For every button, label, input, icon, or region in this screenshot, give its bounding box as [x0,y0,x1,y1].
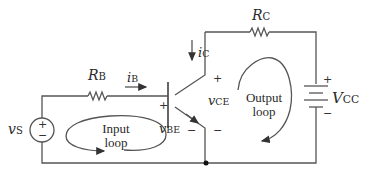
input-loop-label: Inputloop [96,122,136,149]
vbe-plus-sign: + [159,100,168,111]
base-current-label: iB [127,71,138,84]
emitter-arrow-icon [186,114,198,123]
source-top-wire [42,96,88,118]
vce-minus-sign: − [213,125,222,136]
source-minus-sign: − [38,130,47,141]
base-resistor-label: RB [88,68,106,82]
circuit-schematic [0,0,371,175]
supply-label: VCC [332,91,359,106]
collector-current-label: iC [198,46,209,59]
collector-resistor-label: RC [252,8,270,22]
collector-lead [175,32,205,95]
supply-minus-sign: − [323,108,332,119]
supply-top-wire [269,32,316,84]
collector-resistor-icon [250,28,269,36]
bjt-circuit-diagram: RB iB RC iC vS VCC vBE vCE + − + − + − +… [0,0,371,175]
ground-junction-dot [204,161,209,166]
base-resistor-icon [88,92,107,100]
output-loop-label: Outputloop [241,91,287,118]
supply-plus-sign: + [323,74,332,85]
vce-plus-sign: + [213,73,222,84]
source-label: vS [8,122,23,136]
vce-label: vCE [208,94,229,107]
vbe-minus-sign: − [187,125,196,136]
vbe-label: vBE [159,122,180,135]
